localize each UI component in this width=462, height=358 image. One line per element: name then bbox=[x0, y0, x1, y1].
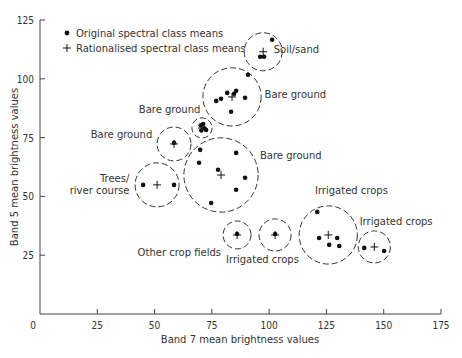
original-mean-dot-icon bbox=[219, 96, 224, 101]
x-axis-title: Band 7 mean brightness values bbox=[161, 334, 319, 345]
cluster-label: Irrigated crops bbox=[360, 216, 433, 227]
cluster-label: Other crop fields bbox=[138, 247, 221, 258]
original-mean-dot-icon bbox=[382, 249, 387, 254]
cluster-label: Bare ground bbox=[265, 89, 327, 100]
legend-dot-icon bbox=[65, 31, 70, 36]
original-mean-dot-icon bbox=[337, 244, 342, 249]
y-tick-label: 75 bbox=[23, 133, 34, 144]
cluster-label: Bare ground bbox=[260, 150, 322, 161]
original-mean-dot-icon bbox=[141, 183, 146, 188]
original-mean-dot-icon bbox=[243, 96, 248, 101]
cluster-label: Bare ground bbox=[91, 129, 153, 140]
cluster: Other crop fields bbox=[138, 221, 251, 258]
original-mean-dot-icon bbox=[335, 236, 340, 241]
cluster: Bare ground bbox=[184, 138, 322, 212]
cluster: Irrigated crops bbox=[358, 216, 432, 263]
x-tick-label: 125 bbox=[318, 320, 335, 331]
original-mean-dot-icon bbox=[197, 160, 202, 165]
cluster: Soil/sand bbox=[244, 33, 319, 71]
x-tick-label: 0 bbox=[30, 320, 36, 331]
original-mean-dot-icon bbox=[199, 128, 204, 133]
original-mean-dot-icon bbox=[214, 99, 219, 104]
original-mean-dot-icon bbox=[198, 148, 203, 153]
cluster: Irrigated crops bbox=[226, 219, 299, 265]
cluster-label: Trees/river course bbox=[70, 173, 130, 196]
y-tick-label: 100 bbox=[17, 74, 34, 85]
original-mean-dot-icon bbox=[225, 91, 230, 96]
original-mean-dot-icon bbox=[315, 210, 320, 215]
original-mean-dot-icon bbox=[204, 128, 209, 133]
original-mean-dot-icon bbox=[317, 236, 322, 241]
clusters: Soil/sandBare groundBare groundBare grou… bbox=[70, 33, 433, 266]
cluster: Bare ground bbox=[91, 127, 191, 161]
x-tick-label: 50 bbox=[149, 320, 161, 331]
cluster: Bare ground bbox=[203, 68, 326, 126]
original-mean-dot-icon bbox=[246, 73, 251, 78]
axes: 0255075100125150175255075100125 bbox=[17, 15, 450, 331]
cluster-label: Bare ground bbox=[139, 104, 201, 115]
y-tick-label: 50 bbox=[23, 191, 35, 202]
original-mean-dot-icon bbox=[234, 151, 239, 156]
scatter-chart: 0255075100125150175255075100125 Soil/san… bbox=[0, 0, 462, 358]
y-tick-label: 125 bbox=[17, 15, 34, 26]
x-tick-label: 75 bbox=[206, 320, 217, 331]
original-mean-dot-icon bbox=[362, 246, 367, 251]
cluster: Trees/river course bbox=[70, 163, 179, 207]
x-tick-label: 25 bbox=[92, 320, 103, 331]
cluster-label: Soil/sand bbox=[274, 44, 319, 55]
legend-plus-icon bbox=[63, 44, 71, 52]
original-mean-dot-icon bbox=[216, 168, 221, 173]
original-mean-dot-icon bbox=[172, 183, 177, 188]
cluster-label: Irrigated crops bbox=[315, 185, 388, 196]
legend-plus-label: Rationalised spectral class means bbox=[76, 43, 245, 54]
original-mean-dot-icon bbox=[209, 201, 214, 206]
legend: Original spectral class means Rationalis… bbox=[63, 28, 245, 54]
original-mean-dot-icon bbox=[262, 54, 267, 59]
x-tick-label: 175 bbox=[432, 320, 449, 331]
y-axis-title: Band 5 mean brightness values bbox=[9, 88, 20, 246]
original-mean-dot-icon bbox=[234, 188, 239, 193]
legend-dot-label: Original spectral class means bbox=[76, 28, 223, 39]
x-tick-label: 150 bbox=[375, 320, 392, 331]
cluster-label: Irrigated crops bbox=[226, 254, 299, 265]
y-tick-label: 25 bbox=[23, 250, 34, 261]
original-mean-dot-icon bbox=[229, 109, 234, 114]
x-tick-label: 100 bbox=[261, 320, 278, 331]
original-mean-dot-icon bbox=[243, 176, 248, 181]
original-mean-dot-icon bbox=[270, 37, 275, 42]
original-mean-dot-icon bbox=[327, 243, 332, 248]
